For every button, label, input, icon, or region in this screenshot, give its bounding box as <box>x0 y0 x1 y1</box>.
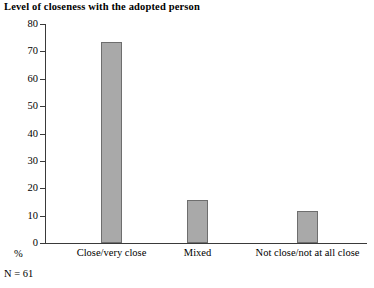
y-axis-tick <box>40 106 45 107</box>
y-axis-tick <box>40 134 45 135</box>
y-axis-tick <box>40 79 45 80</box>
x-axis-category-label: Not close/not at all close <box>256 246 360 259</box>
y-axis-tick <box>40 24 45 25</box>
x-axis-category-label: Mixed <box>184 246 211 259</box>
x-axis-line <box>45 243 367 244</box>
bar-mixed <box>187 200 208 243</box>
y-axis-tick-label: 50 <box>8 101 38 112</box>
chart-container: Level of closeness with the adopted pers… <box>0 0 374 288</box>
y-axis-tick <box>40 161 45 162</box>
y-axis-tick-label: 40 <box>8 129 38 140</box>
y-axis-unit-label: % <box>14 248 23 260</box>
bar-not-close <box>297 211 318 243</box>
y-axis-tick <box>40 216 45 217</box>
y-axis-tick <box>40 51 45 52</box>
y-axis-tick-label: 10 <box>8 211 38 222</box>
bar-close-very-close <box>101 42 122 243</box>
y-axis-tick <box>40 243 45 244</box>
y-axis-tick-label: 30 <box>8 156 38 167</box>
y-axis-tick-label: 0 <box>8 238 38 249</box>
y-axis-line <box>45 24 46 244</box>
y-axis-tick <box>40 188 45 189</box>
sample-size-footnote: N = 61 <box>4 268 33 280</box>
y-axis-tick-label: 80 <box>8 19 38 30</box>
plot-area: 80 70 60 50 40 30 20 10 0 % Close/very c… <box>0 0 374 288</box>
y-axis-tick-label: 20 <box>8 183 38 194</box>
y-axis-tick-label: 60 <box>8 74 38 85</box>
x-axis-category-label: Close/very close <box>77 246 147 259</box>
y-axis-tick-label: 70 <box>8 46 38 57</box>
